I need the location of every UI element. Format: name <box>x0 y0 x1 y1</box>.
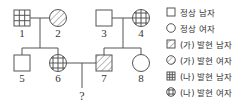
unknown-child-label: ? <box>79 89 84 103</box>
square-hatch-icon <box>167 40 175 48</box>
legend: 정상 남자 정상 여자 (가) 발현 남자 (가) 발현 여자 (나) 발현 남… <box>167 8 232 98</box>
label-8: 8 <box>138 72 144 84</box>
connector-lines <box>22 18 141 88</box>
individual-1: 1 <box>14 10 30 39</box>
svg-text:정상 여자: 정상 여자 <box>180 24 215 34</box>
legend-item-ga-female: (가) 발현 여자 <box>167 56 232 66</box>
legend-item-na-male: (나) 발현 남자 <box>167 72 232 82</box>
circle-plain-icon <box>167 24 176 33</box>
svg-text:(나) 발현 남자: (나) 발현 남자 <box>180 72 232 82</box>
label-6: 6 <box>55 72 61 84</box>
individual-4: 4 <box>133 10 150 40</box>
svg-text:(나) 발현 여자: (나) 발현 여자 <box>180 88 232 98</box>
svg-text:정상 남자: 정상 남자 <box>180 8 215 18</box>
individual-8: 8 <box>133 55 150 85</box>
individual-2: 2 <box>50 10 67 40</box>
svg-text:(가) 발현 여자: (가) 발현 여자 <box>180 56 232 66</box>
individual-3: 3 <box>96 10 112 39</box>
label-2: 2 <box>55 27 61 39</box>
legend-item-normal-female: 정상 여자 <box>167 24 215 34</box>
pedigree-diagram: 1 2 3 4 5 6 7 8 <box>0 0 245 111</box>
individual-5: 5 <box>14 55 30 84</box>
circle-grid-icon <box>167 88 176 97</box>
individual-6: 6 <box>50 55 67 85</box>
square-plain-icon <box>167 8 175 16</box>
legend-item-ga-male: (가) 발현 남자 <box>167 40 232 50</box>
label-1: 1 <box>19 27 25 39</box>
label-7: 7 <box>101 72 107 84</box>
label-4: 4 <box>138 27 144 39</box>
label-5: 5 <box>19 72 25 84</box>
circle-hatch-icon <box>167 56 176 65</box>
square-grid-icon <box>167 72 175 80</box>
svg-text:(가) 발현 남자: (가) 발현 남자 <box>180 40 232 50</box>
legend-item-normal-male: 정상 남자 <box>167 8 215 18</box>
individual-7: 7 <box>96 55 112 84</box>
label-3: 3 <box>101 27 107 39</box>
legend-item-na-female: (나) 발현 여자 <box>167 88 232 98</box>
